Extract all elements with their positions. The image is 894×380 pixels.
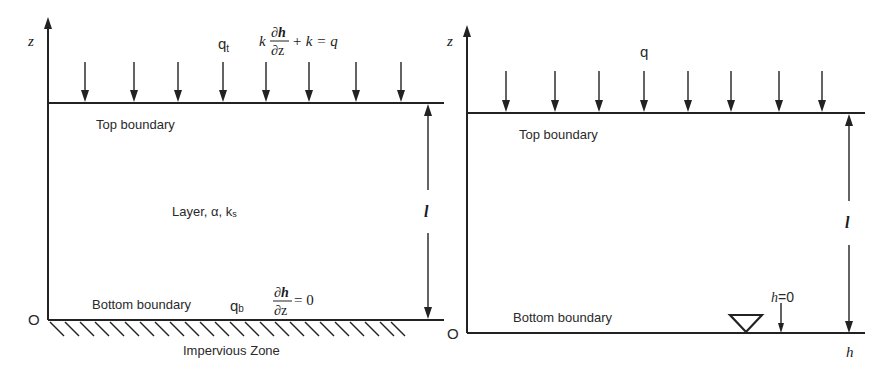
h-axis-label: h <box>846 344 854 360</box>
down-arrow-icon <box>397 90 405 102</box>
right-z-axis-arrowhead-icon <box>463 25 471 37</box>
top-boundary-condition-equation: k ∂h ∂z + k = q <box>259 25 338 58</box>
right-origin-label: O <box>447 325 459 342</box>
left-panel: z qt k ∂h ∂z + k = q Top boundary Layer,… <box>27 17 444 358</box>
down-arrow-icon <box>684 100 692 112</box>
left-origin-label: O <box>28 311 40 328</box>
down-arrow-icon <box>778 323 784 333</box>
water-table-icon <box>730 315 762 332</box>
soil-column-diagram: z qt k ∂h ∂z + k = q Top boundary Layer,… <box>0 0 894 380</box>
left-flux-label: qt <box>218 35 229 54</box>
down-arrow-icon <box>424 307 432 319</box>
down-arrow-icon <box>219 90 227 102</box>
down-arrow-icon <box>775 100 783 112</box>
right-flux-label: q <box>640 43 648 60</box>
right-thickness-label: l <box>845 214 850 231</box>
svg-text:∂z: ∂z <box>274 303 287 318</box>
layer-properties-label: Layer, α, ks <box>172 204 237 219</box>
svg-text:+ k = q: + k = q <box>292 33 338 49</box>
svg-text:∂z: ∂z <box>271 43 284 58</box>
bottom-boundary-condition-equation: ∂h ∂z = 0 <box>273 285 314 318</box>
up-arrow-icon <box>424 104 432 116</box>
left-thickness-label: l <box>424 203 429 220</box>
down-arrow-icon <box>305 90 313 102</box>
right-z-axis-label: z <box>446 33 453 49</box>
left-flux-arrows <box>81 62 405 102</box>
down-arrow-icon <box>640 100 648 112</box>
right-panel: z q Top boundary l Bottom boundary h=0 <box>446 25 865 360</box>
bottom-flux-label: qb <box>230 297 244 314</box>
left-thickness-dimension: l <box>424 104 432 319</box>
left-z-axis-arrowhead-icon <box>44 17 52 29</box>
down-arrow-icon <box>262 90 270 102</box>
down-arrow-icon <box>551 100 559 112</box>
down-arrow-icon <box>818 100 826 112</box>
down-arrow-icon <box>352 90 360 102</box>
down-arrow-icon <box>727 100 735 112</box>
left-top-boundary-label: Top boundary <box>96 117 175 132</box>
impervious-hatching <box>50 322 405 336</box>
left-z-axis-label: z <box>27 33 34 49</box>
left-bottom-boundary-label: Bottom boundary <box>92 297 192 312</box>
svg-text:∂h: ∂h <box>271 25 286 40</box>
up-arrow-icon <box>845 114 853 126</box>
down-arrow-icon <box>502 100 510 112</box>
right-thickness-dimension: l <box>845 114 853 333</box>
down-arrow-icon <box>595 100 603 112</box>
down-arrow-icon <box>130 90 138 102</box>
svg-text:= 0: = 0 <box>294 292 314 308</box>
down-arrow-icon <box>845 321 853 333</box>
right-top-boundary-label: Top boundary <box>519 127 598 142</box>
down-arrow-icon <box>174 90 182 102</box>
right-bottom-boundary-label: Bottom boundary <box>513 310 613 325</box>
right-flux-arrows <box>502 71 826 112</box>
svg-text:∂h: ∂h <box>274 285 289 300</box>
impervious-zone-label: Impervious Zone <box>183 343 280 358</box>
svg-text:k: k <box>259 33 266 49</box>
down-arrow-icon <box>81 90 89 102</box>
water-table-condition-label: h=0 <box>771 289 794 305</box>
